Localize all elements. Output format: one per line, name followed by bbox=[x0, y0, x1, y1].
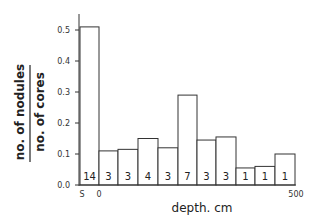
bars bbox=[79, 27, 296, 185]
bar-count: 3 bbox=[203, 171, 209, 182]
bar-count: 3 bbox=[223, 171, 229, 182]
x-axis-label: depth. cm bbox=[172, 201, 233, 215]
bar bbox=[80, 27, 99, 185]
y-tick-label: 0.0 bbox=[57, 181, 70, 190]
bar-count: 1 bbox=[242, 171, 248, 182]
y-tick-label: 0.3 bbox=[57, 88, 70, 97]
y-label-denominator: no. of cores bbox=[33, 72, 47, 152]
x-tick-label: 500 bbox=[288, 190, 303, 199]
x-tick-label: S bbox=[79, 190, 84, 199]
bar-count: 3 bbox=[165, 171, 171, 182]
bar-count: 7 bbox=[184, 171, 190, 182]
bar-count: 1 bbox=[282, 171, 288, 182]
x-tick-label: 0 bbox=[96, 190, 101, 199]
y-label-numerator: no. of nodules bbox=[13, 64, 27, 160]
bar-count: 1 bbox=[262, 171, 268, 182]
y-ticks: 0.00.10.20.30.40.5 bbox=[57, 26, 79, 190]
y-tick-label: 0.4 bbox=[57, 57, 70, 66]
y-tick-label: 0.5 bbox=[57, 26, 70, 35]
y-axis-label: no. of nodules no. of cores bbox=[13, 64, 47, 162]
y-tick-label: 0.1 bbox=[57, 150, 70, 159]
bar-count: 3 bbox=[105, 171, 111, 182]
bar-count: 4 bbox=[145, 171, 151, 182]
bar-count: 3 bbox=[125, 171, 131, 182]
histogram-chart: 0.00.10.20.30.40.5 143343733111 S0500 no… bbox=[0, 0, 317, 218]
x-ticks: S0500 bbox=[79, 190, 303, 199]
y-tick-label: 0.2 bbox=[57, 119, 70, 128]
bar-count: 14 bbox=[83, 171, 96, 182]
